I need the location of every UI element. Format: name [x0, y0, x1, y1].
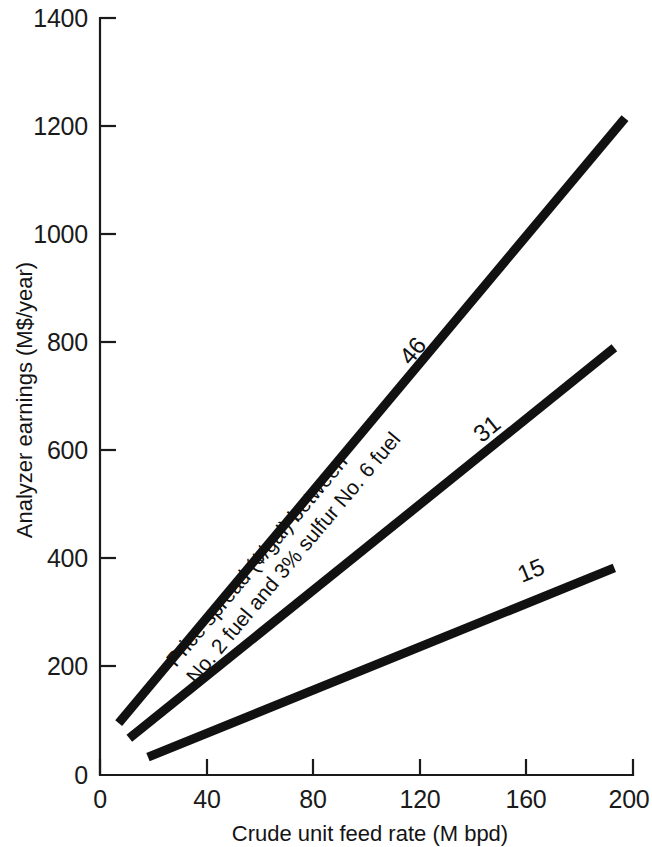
- x-axis-title: Crude unit feed rate (M bpd): [232, 821, 508, 846]
- annotation-line-2: No. 2 fuel and 3% sulfur No. 6 fuel: [181, 427, 404, 687]
- x-tick-label-80: 80: [299, 785, 326, 813]
- line-chart: 1400 1200 1000 800 600 400 200 0 0 40 80…: [0, 0, 652, 847]
- y-tick-label-600: 600: [47, 436, 88, 464]
- x-tick-label-160: 160: [505, 785, 546, 813]
- x-tick-label-120: 120: [399, 785, 440, 813]
- y-tick-label-200: 200: [47, 652, 88, 680]
- chart-page: 1400 1200 1000 800 600 400 200 0 0 40 80…: [0, 0, 652, 847]
- series-label-46: 46: [394, 332, 432, 370]
- y-tick-label-0: 0: [74, 761, 88, 789]
- y-tick-label-1200: 1200: [33, 112, 88, 140]
- y-axis-title: Analyzer earnings (M$/year): [12, 262, 37, 538]
- x-tick-label-0: 0: [93, 785, 107, 813]
- y-tick-label-800: 800: [47, 328, 88, 356]
- x-tick-label-40: 40: [193, 785, 220, 813]
- y-tick-label-1000: 1000: [33, 220, 88, 248]
- x-tick-label-200: 200: [608, 785, 649, 813]
- y-tick-label-400: 400: [47, 544, 88, 572]
- y-tick-label-1400: 1400: [33, 4, 88, 32]
- series-label-15: 15: [513, 553, 548, 588]
